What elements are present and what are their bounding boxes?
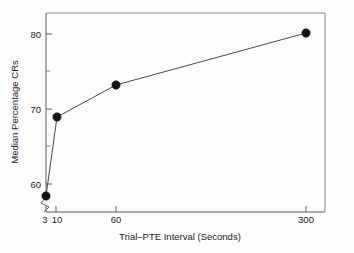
line-chart: 80 70 60 3 10 60 300 Trial–PTE Interval … <box>0 0 354 253</box>
data-point-60 <box>112 81 120 89</box>
plot-frame <box>46 13 325 212</box>
data-point-10 <box>53 113 61 121</box>
y-tick-label-80: 80 <box>30 29 41 40</box>
y-tick-label-60: 60 <box>30 179 41 190</box>
data-point-3 <box>42 192 50 200</box>
y-axis-title: Median Percentage CRs <box>9 60 20 164</box>
data-point-300 <box>302 29 310 37</box>
x-tick-label-10: 10 <box>52 214 63 225</box>
figure-container: 80 70 60 3 10 60 300 Trial–PTE Interval … <box>0 0 354 253</box>
y-tick-label-70: 70 <box>30 104 41 115</box>
series-line-median-crs <box>46 33 306 196</box>
x-tick-label-3: 3 <box>42 214 47 225</box>
x-axis-title: Trial–PTE Interval (Seconds) <box>119 231 241 242</box>
x-tick-label-300: 300 <box>298 214 314 225</box>
x-tick-label-60: 60 <box>111 214 122 225</box>
